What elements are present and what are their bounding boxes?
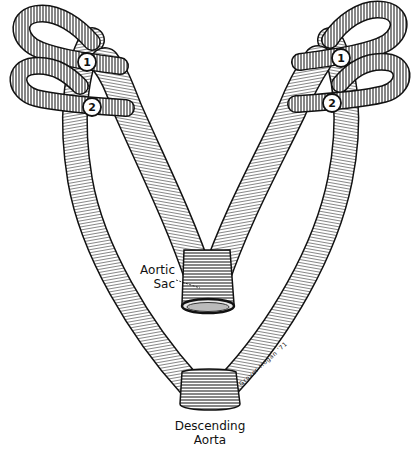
descending-aorta-label-line2: Aorta (150, 433, 270, 447)
aortic-arches-illustration: 1 2 1 2 (0, 0, 420, 449)
aortic-sac-label-line1: Aortic (131, 263, 175, 277)
arch-marker-right-2: 2 (323, 94, 341, 112)
arch-marker-left-1: 1 (78, 53, 96, 71)
descending-aorta (180, 369, 240, 410)
aortic-sac (182, 250, 234, 313)
descending-aorta-label-line1: Descending (150, 419, 270, 433)
aortic-sac-label-line2: Sac (131, 277, 175, 291)
arch-number: 1 (337, 52, 345, 65)
arch-marker-right-1: 1 (332, 49, 350, 67)
right-ventral-aorta (215, 60, 318, 280)
arch-marker-left-2: 2 (83, 98, 101, 116)
left-ventral-aorta (105, 62, 200, 280)
arch-number: 2 (328, 97, 336, 110)
aortic-sac-label: Aortic Sac (131, 263, 175, 291)
descending-aorta-label: Descending Aorta (150, 419, 270, 447)
arch-number: 2 (88, 101, 96, 114)
arch-number: 1 (83, 56, 91, 69)
